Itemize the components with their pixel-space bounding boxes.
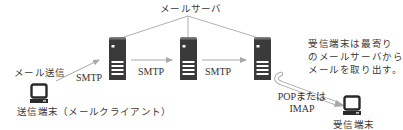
mail-server-label: メールサーバ [160,4,222,14]
mail-send-label: メール送信 [14,68,66,78]
receiver-note-line-1: 受信端末は最寄り [308,37,403,50]
smtp-label-3: SMTP [205,67,231,77]
sender-computer-icon [30,85,48,104]
smtp-label-2: SMTP [138,67,164,77]
pop-imap-label-line-1: POPまたは [272,91,332,103]
pop-imap-label-line-2: IMAP [272,103,332,115]
mail-server-2-icon [180,37,197,80]
receiver-computer-icon [343,97,361,116]
pop-imap-label: POPまたは IMAP [272,91,332,115]
receiver-device-label: 受信端末 [333,120,374,130]
receiver-note-line-2: のメールサーバから [308,50,403,63]
mail-server-1-icon [109,37,126,80]
sender-device-label: 送信端末（メールクライアント） [17,107,172,117]
receiver-note-line-3: メールを取り出す。 [308,63,403,76]
server-callout-lines [118,16,262,39]
mail-server-3-icon [254,37,271,80]
receiver-note: 受信端末は最寄り のメールサーバから メールを取り出す。 [308,37,403,76]
smtp-label-1: SMTP [76,73,102,83]
